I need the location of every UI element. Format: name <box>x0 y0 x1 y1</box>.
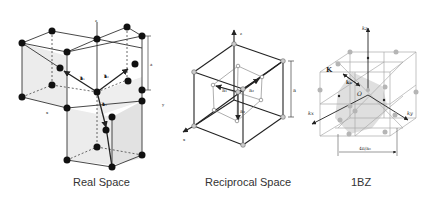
atom <box>64 49 71 56</box>
atom <box>109 114 116 121</box>
atom <box>125 78 132 85</box>
bz-node <box>318 88 323 93</box>
atom <box>64 157 71 164</box>
real-axis-z-label: z <box>95 18 97 23</box>
caption-reciprocal-space: Reciprocal Space <box>205 176 291 188</box>
reciprocal-node <box>281 115 286 120</box>
real-a3-label: a⃗₃ <box>101 102 107 107</box>
reciprocal-a3-label: a₃ <box>240 108 245 114</box>
vector-a1 <box>64 71 97 92</box>
caption-real-space: Real Space <box>73 176 130 188</box>
bz-node <box>347 132 352 137</box>
atom <box>49 28 56 35</box>
reciprocal-node <box>192 124 197 129</box>
bz-node <box>336 62 341 67</box>
k0-label: k₀ <box>346 79 352 85</box>
reciprocal-axis-x-label: x <box>183 137 186 142</box>
atom <box>94 144 101 151</box>
bz-node <box>414 90 419 95</box>
K-label: K <box>326 65 333 74</box>
reciprocal-node <box>232 42 237 47</box>
bz-node <box>393 113 398 118</box>
atom <box>139 152 146 159</box>
ky-label: ky <box>407 110 413 117</box>
bz-node <box>394 50 399 55</box>
atom <box>57 65 64 72</box>
reciprocal-node <box>236 90 241 95</box>
real-a1-label: a⃗₁ <box>79 76 85 81</box>
reciprocal-node <box>260 75 264 79</box>
atom <box>109 164 116 171</box>
atom <box>19 40 26 47</box>
reciprocal-node <box>259 98 263 102</box>
bz-node <box>348 50 353 55</box>
bz-node <box>348 104 353 109</box>
reciprocal-node <box>212 108 216 112</box>
reciprocal-a1-label: a₁ <box>222 87 227 93</box>
atom <box>124 24 131 31</box>
atom <box>64 105 71 112</box>
brillouin-zone-diagram: kz kx ky K k₀ O 4π/a₀ <box>308 25 419 156</box>
reciprocal-node <box>211 83 215 87</box>
bz-node <box>383 130 388 135</box>
reciprocal-node <box>241 143 246 148</box>
bz-node <box>383 85 388 90</box>
real-axis-y-label: y <box>161 102 165 107</box>
diagram-canvas: z x y a a⃗₁ a⃗₂ a⃗₃ <box>0 0 428 199</box>
reciprocal-a2-label: a₂ <box>249 87 254 93</box>
real-a2-label: a⃗₂ <box>103 74 109 79</box>
origin-label: O <box>357 90 362 97</box>
real-space-lattice: z x y a a⃗₁ a⃗₂ a⃗₃ <box>19 18 166 171</box>
kz-label: kz <box>362 25 368 31</box>
reciprocal-space-lattice: z x a a₁ a₂ a₃ <box>183 30 296 147</box>
atom <box>139 33 146 40</box>
caption-1bz: 1BZ <box>351 176 371 188</box>
reciprocal-node <box>241 87 246 92</box>
atom <box>49 82 56 89</box>
reciprocal-node <box>235 119 239 123</box>
real-a-label: a <box>150 62 153 67</box>
real-axis-x-label: x <box>46 110 49 115</box>
real-face-lower-right <box>112 101 142 165</box>
atom <box>94 89 101 96</box>
atom <box>139 98 146 105</box>
reciprocal-axis-z-label: z <box>240 31 242 36</box>
reciprocal-node <box>236 64 240 68</box>
atom <box>139 87 146 94</box>
reciprocal-node <box>192 70 197 75</box>
bz-node <box>353 109 358 114</box>
reciprocal-node <box>281 59 286 64</box>
reciprocal-a-label: a <box>293 87 296 93</box>
bz-node <box>338 118 343 123</box>
atom <box>132 61 139 68</box>
bz-node <box>366 88 370 92</box>
atom <box>94 36 101 43</box>
bz-width-label: 4π/a₀ <box>359 146 371 151</box>
vector-b1 <box>216 86 238 92</box>
real-face-lower <box>67 108 112 165</box>
atom <box>103 127 110 134</box>
kx-label: kx <box>308 110 314 116</box>
atom <box>19 94 26 101</box>
